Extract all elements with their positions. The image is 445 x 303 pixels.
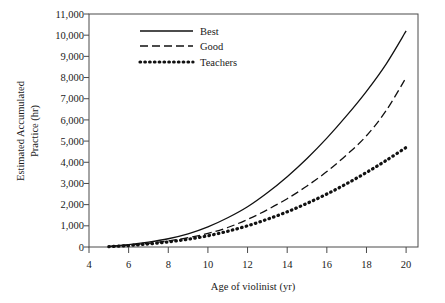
x-tick-label: 18 [361, 259, 372, 270]
y-tick-label: 9,000 [60, 51, 84, 62]
x-axis-title: Age of violinist (yr) [211, 281, 296, 293]
y-axis-title-line1: Estimated Accumulated [15, 80, 26, 181]
y-tick-label: 7,000 [60, 93, 84, 104]
x-tick-label: 10 [203, 259, 214, 270]
y-tick-label: 10,000 [55, 30, 84, 41]
y-tick-label: 4,000 [60, 157, 84, 168]
y-tick-label: 0 [79, 242, 84, 253]
y-tick-label: 11,000 [56, 9, 85, 20]
legend-label-teachers: Teachers [200, 57, 237, 68]
y-tick-label: 6,000 [60, 115, 84, 126]
chart-figure: 01,0002,0003,0004,0005,0006,0007,0008,00… [0, 0, 445, 303]
x-tick-label: 14 [282, 259, 293, 270]
y-tick-label: 5,000 [60, 136, 84, 147]
x-tick-label: 20 [401, 259, 412, 270]
y-axis-title-line2: Practice (hr) [29, 104, 41, 157]
practice-accumulation-line-chart: 01,0002,0003,0004,0005,0006,0007,0008,00… [0, 0, 445, 303]
x-tick-label: 8 [166, 259, 171, 270]
legend-label-best: Best [200, 26, 219, 37]
y-tick-label: 8,000 [60, 72, 84, 83]
x-tick-label: 6 [126, 259, 131, 270]
x-tick-label: 16 [322, 259, 333, 270]
y-tick-label: 1,000 [60, 220, 84, 231]
legend-label-good: Good [200, 41, 224, 52]
y-tick-label: 2,000 [60, 199, 84, 210]
y-tick-label: 3,000 [60, 178, 84, 189]
x-tick-label: 12 [242, 259, 253, 270]
x-tick-label: 4 [86, 259, 92, 270]
